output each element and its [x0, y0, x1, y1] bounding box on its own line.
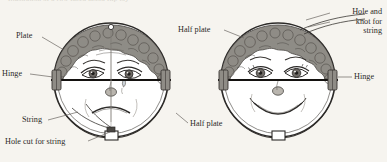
left-plate-group — [51, 23, 171, 140]
label-hinge-left: Hinge — [2, 69, 22, 79]
left-hinge-block-left — [52, 70, 61, 90]
label-hole-and-knot-line-1: Hole and — [286, 7, 382, 17]
label-hole-and-knot-for-string: Hole and knot for string — [286, 7, 382, 36]
leader-hinge-left — [30, 74, 53, 77]
label-plate: Plate — [16, 31, 32, 41]
leader-half-plate-bottom — [176, 113, 188, 123]
left-hinge-block-right — [161, 70, 170, 90]
label-hole-and-knot-line-3: string — [286, 26, 382, 36]
left-string-hole — [108, 24, 113, 29]
left-tear — [122, 80, 125, 87]
leader-half-plate-top — [224, 30, 244, 38]
label-hole-cut-for-string: Hole cut for string — [5, 137, 65, 147]
label-hinge-right: Hinge — [354, 72, 374, 82]
right-nose — [273, 87, 284, 95]
label-half-plate-bottom: Half plate — [190, 119, 223, 129]
left-bottom-tab — [105, 131, 118, 140]
label-half-plate-top: Half plate — [178, 25, 211, 35]
label-hole-and-knot-line-2: knot for — [286, 17, 382, 27]
right-hinge-block-right — [328, 70, 337, 90]
leader-plate — [42, 37, 64, 50]
diagram-canvas: Illustration of a two-faced mood flip to… — [0, 0, 387, 162]
right-bottom-tab — [272, 131, 285, 140]
right-hinge-block-left — [219, 70, 228, 90]
label-string: String — [22, 115, 42, 125]
